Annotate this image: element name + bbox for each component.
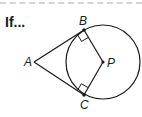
point-b	[82, 28, 86, 32]
label-c: C	[80, 98, 89, 112]
tangent-circle-diagram: A B C P	[0, 0, 142, 117]
label-b: B	[79, 14, 87, 28]
segment-ac	[34, 62, 84, 95]
point-p	[101, 60, 104, 63]
label-a: A	[23, 55, 32, 69]
segment-ab	[34, 30, 84, 62]
point-c	[82, 93, 86, 97]
radius-cp	[84, 62, 103, 95]
radius-bp	[84, 30, 103, 62]
label-p: P	[107, 56, 115, 70]
